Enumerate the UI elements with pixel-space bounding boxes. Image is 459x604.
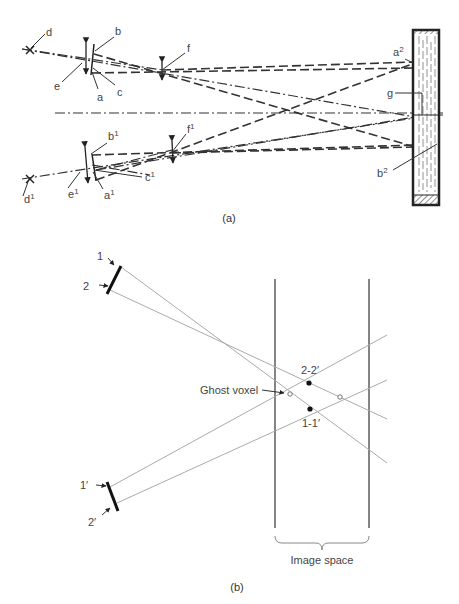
screen-plate <box>413 30 443 205</box>
label-detector-1p: 1′ <box>80 479 88 491</box>
label-detector-2: 2 <box>83 280 89 292</box>
label-d: d <box>46 26 52 38</box>
label-a1: a1 <box>104 188 115 201</box>
diagram-canvas: d b e a c f a2 g b2 b1 f1 e1 a1 c1 d1 (a… <box>0 0 459 604</box>
label-b: b <box>115 25 121 37</box>
label-d1: d1 <box>24 192 35 205</box>
label-detector-1: 1 <box>97 250 103 262</box>
label-detector-2p: 2′ <box>88 516 96 528</box>
source-d1-icon <box>26 175 34 183</box>
label-c1: c1 <box>145 170 156 183</box>
label-f: f <box>187 42 191 54</box>
label-g: g <box>387 87 393 99</box>
label-point-2-2: 2-2′ <box>301 364 319 376</box>
ghost-voxel-right <box>338 395 342 399</box>
label-e: e <box>54 80 60 92</box>
caption-a: (a) <box>222 212 235 224</box>
label-a: a <box>97 91 104 103</box>
panel-a: d b e a c f a2 g b2 b1 f1 e1 a1 c1 d1 (a… <box>22 25 445 224</box>
ghost-voxel-left <box>288 392 292 396</box>
label-a2: a2 <box>393 45 404 58</box>
true-point-2-2 <box>306 380 311 385</box>
panel-b: 1 2 1′ 2′ 2-2′ 1-1′ Ghost voxel Image sp… <box>80 250 387 593</box>
label-b1: b1 <box>108 129 119 142</box>
label-f1: f1 <box>187 122 195 135</box>
label-image-space: Image space <box>291 554 354 566</box>
label-ghost-voxel: Ghost voxel <box>200 384 258 396</box>
label-point-1-1: 1-1′ <box>302 417 320 429</box>
label-c: c <box>117 86 123 98</box>
image-space-brace <box>275 536 369 550</box>
detector-upper <box>107 266 121 294</box>
detector-lower <box>107 482 118 511</box>
lens-e1-icon <box>85 147 88 183</box>
caption-b: (b) <box>230 581 243 593</box>
label-e1: e1 <box>68 187 79 200</box>
true-point-1-1 <box>307 406 312 411</box>
label-b2: b2 <box>377 166 388 179</box>
